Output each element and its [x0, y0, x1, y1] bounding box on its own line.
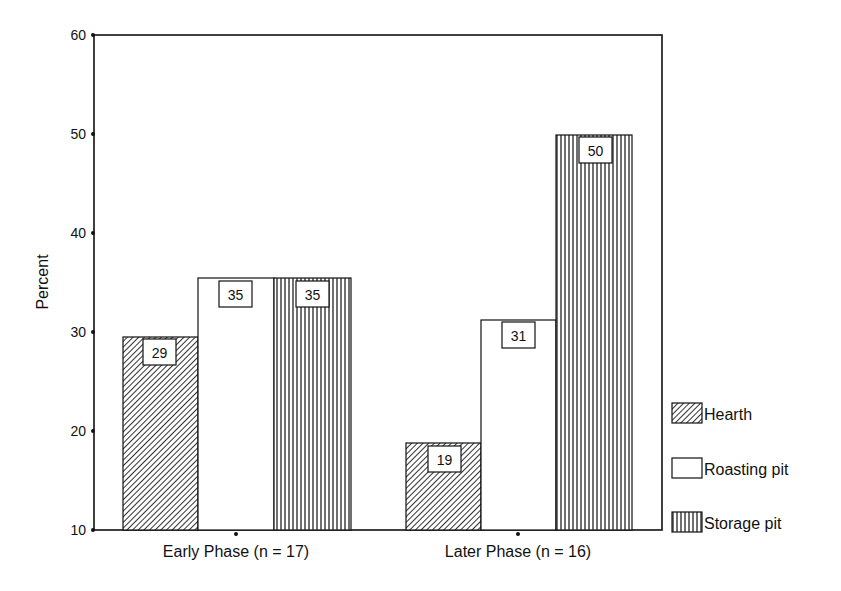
y-tick: 30 — [70, 324, 95, 340]
svg-text:60: 60 — [70, 27, 86, 43]
y-tick: 40 — [70, 225, 95, 241]
y-tick: 50 — [70, 126, 95, 142]
y-tick: 20 — [70, 423, 95, 439]
bar-value-label: 35 — [305, 287, 321, 303]
bar-storage-later — [556, 135, 632, 530]
legend-swatch-hearth — [672, 403, 702, 423]
bar-hearth-early — [123, 337, 198, 530]
bar-value-label: 31 — [511, 328, 527, 344]
svg-text:50: 50 — [70, 126, 86, 142]
y-tick: 60 — [70, 27, 95, 43]
legend-label: Hearth — [704, 406, 752, 423]
legend-swatch-storage — [672, 512, 702, 532]
bar-group-later: 19 31 50 — [406, 135, 632, 530]
legend-swatch-roasting — [672, 458, 702, 478]
svg-text:30: 30 — [70, 324, 86, 340]
svg-text:40: 40 — [70, 225, 86, 241]
bar-value-label: 19 — [437, 452, 453, 468]
y-tick: 10 — [70, 522, 95, 538]
bar-value-label: 50 — [588, 143, 604, 159]
bar-roasting-early — [198, 278, 274, 530]
svg-text:10: 10 — [70, 522, 86, 538]
bar-value-label: 35 — [228, 287, 244, 303]
y-axis-label: Percent — [34, 254, 51, 310]
legend-label: Roasting pit — [704, 461, 789, 478]
bar-group-early: 29 35 35 — [123, 278, 351, 530]
x-axis: Early Phase (n = 17) Later Phase (n = 16… — [163, 532, 591, 560]
svg-text:20: 20 — [70, 423, 86, 439]
legend-label: Storage pit — [704, 515, 782, 532]
x-tick-label: Early Phase (n = 17) — [163, 543, 309, 560]
bar-chart: 10 20 30 40 50 60 Percent 29 35 35 19 31… — [0, 0, 841, 591]
bar-storage-early — [274, 278, 351, 530]
bar-value-label: 29 — [152, 345, 168, 361]
x-tick-label: Later Phase (n = 16) — [445, 543, 591, 560]
bar-roasting-later — [481, 320, 556, 530]
y-axis: 10 20 30 40 50 60 — [70, 27, 95, 538]
legend: Hearth Roasting pit Storage pit — [672, 403, 789, 532]
